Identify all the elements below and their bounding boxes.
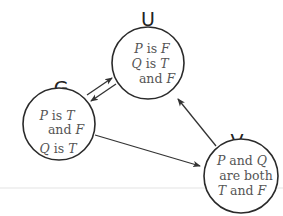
node-v-line-1: P and Q [216,153,267,168]
edge-v-to-u [178,99,216,146]
node-g: G P is T and F Q is T [23,77,95,160]
edge-g-to-v [95,135,200,166]
node-u-line-3: and F [139,71,176,86]
node-u-line-2: Q is T [132,56,171,71]
edge-u-to-g [91,84,116,101]
node-g-line-1: P is T [38,108,76,123]
node-g-line-2: and F [48,122,85,137]
node-u-line-1: P is F [133,41,171,56]
node-v-line-2: are both [219,168,272,183]
node-v-line-3: T and F [218,183,268,198]
node-g-line-3: Q is T [40,141,79,156]
state-diagram: U P is F Q is T and F G P is T and F Q i… [0,0,283,216]
edge-g-to-u [87,78,112,95]
node-v: V P and Q are both T and F [204,130,278,213]
node-u: U P is F Q is T and F [112,8,184,99]
